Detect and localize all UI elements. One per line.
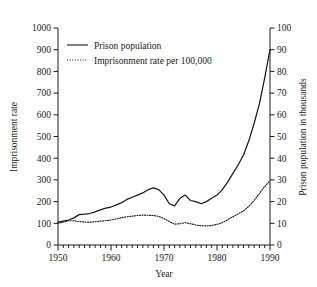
left-tick-label: 400	[37, 154, 52, 164]
right-tick-label: 40	[277, 154, 287, 164]
prison-statistics-chart: 01002003004005006007008009001000 0102030…	[0, 0, 317, 287]
left-tick-label: 200	[37, 197, 52, 207]
left-axis-ticks	[54, 28, 59, 245]
right-axis-title: Prison population in thousands	[298, 78, 308, 196]
left-tick-label: 300	[37, 175, 52, 185]
right-tick-label: 70	[277, 88, 287, 98]
right-axis-ticks	[270, 28, 275, 245]
legend-label-imprisonment-rate: Imprisonment rate per 100,000	[94, 56, 212, 66]
left-tick-label: 100	[37, 219, 52, 229]
right-tick-label: 90	[277, 45, 287, 55]
left-tick-label: 0	[46, 240, 51, 250]
right-tick-label: 60	[277, 110, 287, 120]
left-tick-label: 600	[37, 110, 52, 120]
right-tick-label: 80	[277, 67, 287, 77]
chart-legend: Prison population Imprisonment rate per …	[67, 41, 212, 66]
series-line-prison-population	[58, 50, 270, 223]
bottom-tick-label: 1950	[49, 253, 68, 263]
right-tick-label: 50	[277, 132, 287, 142]
right-tick-label: 20	[277, 197, 287, 207]
left-tick-label: 700	[37, 88, 52, 98]
bottom-tick-label: 1990	[261, 253, 280, 263]
left-tick-label: 800	[37, 67, 52, 77]
left-axis-tick-labels: 01002003004005006007008009001000	[32, 23, 51, 250]
data-series-group	[58, 50, 270, 226]
right-axis-tick-labels: 0102030405060708090100	[277, 23, 292, 250]
bottom-axis-ticks	[58, 245, 270, 251]
bottom-axis-tick-labels: 19501960197019801990	[49, 253, 280, 263]
left-axis-title: Imprisonment rate	[9, 102, 19, 172]
bottom-axis-title: Year	[155, 269, 173, 279]
bottom-tick-label: 1960	[102, 253, 121, 263]
left-tick-label: 500	[37, 132, 52, 142]
bottom-tick-label: 1970	[155, 253, 174, 263]
left-tick-label: 1000	[32, 23, 51, 33]
right-tick-label: 0	[277, 240, 282, 250]
chart-canvas: 01002003004005006007008009001000 0102030…	[0, 0, 317, 287]
right-tick-label: 100	[277, 23, 292, 33]
series-line-imprisonment-rate-per-100-000	[58, 181, 270, 226]
bottom-tick-label: 1980	[208, 253, 227, 263]
right-tick-label: 30	[277, 175, 287, 185]
legend-label-prison-population: Prison population	[94, 41, 162, 51]
left-tick-label: 900	[37, 45, 52, 55]
right-tick-label: 10	[277, 219, 287, 229]
